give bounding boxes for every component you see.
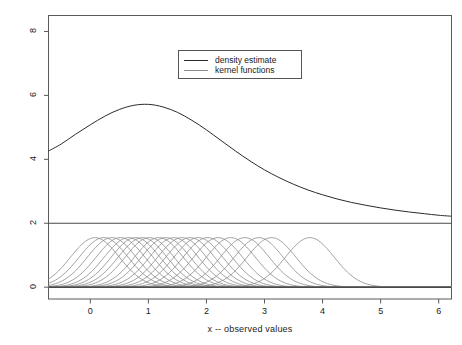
y-tick-label-6: 6 [28,89,37,101]
x-tick-label-3: 3 [262,307,267,316]
density-estimate-plot: 0123456 02468 x -- observed values densi… [0,0,462,345]
y-tick-label-8: 8 [28,25,37,37]
legend-swatch-kernel-functions [184,70,208,71]
y-tick-label-2: 2 [28,217,37,229]
x-tick-label-4: 4 [320,307,325,316]
x-axis-title: x -- observed values [207,324,292,334]
y-tick-label-4: 4 [28,153,37,165]
legend-entry-kernel-functions: kernel functions [184,65,295,75]
x-tick-label-1: 1 [146,307,151,316]
legend-label-density-estimate: density estimate [215,55,276,65]
chart-legend: density estimate kernel functions [178,50,302,79]
legend-label-kernel-functions: kernel functions [215,65,275,75]
legend-swatch-density-estimate [184,60,208,61]
y-tick-label-0: 0 [28,281,37,293]
x-tick-label-2: 2 [204,307,209,316]
x-tick-label-0: 0 [88,307,93,316]
legend-entry-density-estimate: density estimate [184,55,295,65]
x-tick-label-5: 5 [378,307,383,316]
x-tick-label-6: 6 [436,307,441,316]
